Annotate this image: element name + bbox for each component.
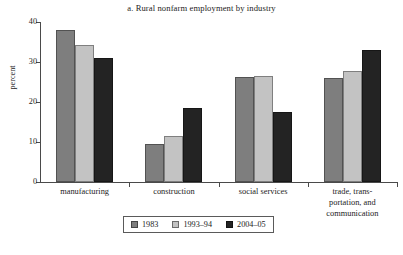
chart-legend: 19831993–942004–05	[123, 216, 274, 233]
bar	[362, 50, 381, 182]
legend-item: 2004–05	[226, 220, 266, 229]
bar	[94, 58, 113, 182]
x-axis-category-label: social services	[219, 186, 308, 197]
bar	[235, 77, 254, 182]
y-axis-label: percent	[8, 76, 17, 90]
chart-figure: a. Rural nonfarm employment by industry …	[0, 0, 403, 255]
x-axis-category-label: trade, trans- portation, and communicati…	[308, 186, 397, 219]
legend-swatch-icon	[131, 221, 138, 228]
x-axis-category-label: construction	[129, 186, 218, 197]
y-tick-label: 0	[33, 177, 37, 186]
bar	[254, 76, 273, 182]
bar	[183, 108, 202, 182]
y-tick-label: 40	[29, 17, 37, 26]
y-tick-label: 30	[29, 57, 37, 66]
legend-label: 1993–94	[183, 220, 212, 229]
bar	[164, 136, 183, 182]
x-axis-category-label: manufacturing	[40, 186, 129, 197]
bar	[56, 30, 75, 182]
legend-item: 1983	[131, 220, 158, 229]
legend-swatch-icon	[226, 221, 233, 228]
bar	[324, 78, 343, 182]
bar	[75, 45, 94, 182]
y-tick-label: 20	[29, 97, 37, 106]
legend-label: 2004–05	[237, 220, 266, 229]
chart-title: a. Rural nonfarm employment by industry	[0, 3, 403, 13]
y-tick-label: 10	[29, 137, 37, 146]
y-axis-line	[40, 22, 41, 183]
legend-label: 1983	[142, 220, 158, 229]
legend-swatch-icon	[172, 221, 179, 228]
bar	[273, 112, 292, 182]
bar	[343, 71, 362, 182]
x-axis-tick	[397, 182, 398, 187]
plot-area: 010203040	[40, 22, 397, 182]
bar	[145, 144, 164, 182]
legend-item: 1993–94	[172, 220, 212, 229]
